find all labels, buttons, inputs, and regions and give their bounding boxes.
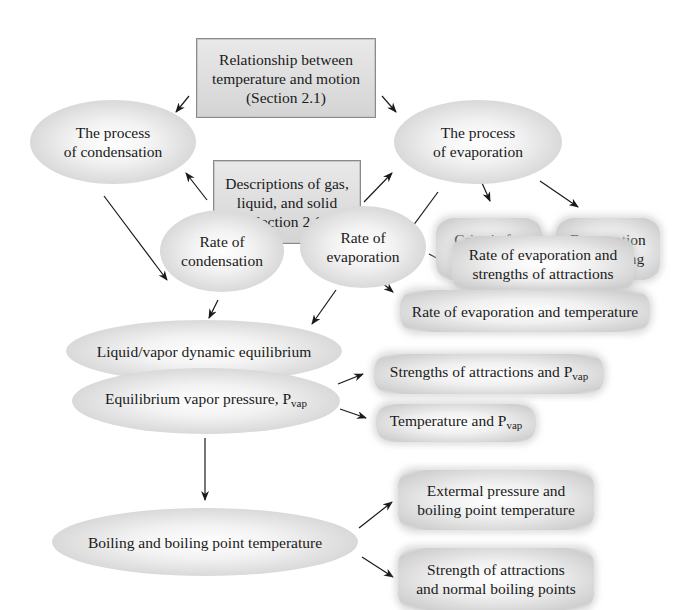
- node-label: Strengths of attractions and Pvap: [390, 362, 588, 386]
- arrow-condensation-to-rate: [104, 196, 167, 280]
- node-rate-evaporation: Rate of evaporation: [300, 206, 426, 288]
- node-strength-normal-boiling: Strength of attractions and normal boili…: [398, 548, 594, 610]
- node-rate-condensation: Rate of condensation: [160, 210, 284, 292]
- arrow-pvap-to-strengths: [338, 374, 363, 384]
- node-rate-evap-temperature: Rate of evaporation and temperature: [400, 290, 650, 332]
- node-label: Relationship between temperature and mot…: [212, 50, 360, 107]
- arrow-relationship-to-evaporation: [382, 96, 396, 112]
- arrow-evaporation-to-cooling: [540, 181, 578, 207]
- arrow-pvap-to-temperature: [340, 409, 366, 418]
- arrow-rate-cond-to-equilibrium: [209, 300, 218, 318]
- arrow-relationship-to-condensation: [176, 96, 189, 112]
- node-label: Extermal pressure and boiling point temp…: [417, 481, 575, 519]
- node-label: The process of condensation: [64, 123, 163, 161]
- node-label: Rate of evaporation and strengths of att…: [469, 245, 617, 283]
- node-label: Temperature and Pvap: [390, 411, 523, 435]
- node-process-condensation: The process of condensation: [30, 100, 196, 184]
- node-label: Rate of evaporation and temperature: [412, 302, 638, 321]
- node-rate-evap-attractions: Rate of evaporation and strengths of att…: [452, 236, 634, 292]
- node-temperature-pvap: Temperature and Pvap: [376, 404, 536, 442]
- node-relationship-temperature-motion: Relationship between temperature and mot…: [196, 38, 376, 118]
- node-label: Rate of evaporation: [326, 228, 399, 266]
- arrow-rate-evap-to-equilibrium: [312, 290, 336, 324]
- node-label: Rate of condensation: [181, 232, 263, 270]
- node-equilibrium-vapor-pressure: Equilibrium vapor pressure, Pvap: [72, 368, 340, 434]
- node-process-evaporation: The process of evaporation: [394, 100, 562, 184]
- arrow-descriptions-to-evaporation: [364, 173, 392, 202]
- node-label: Strength of attractions and normal boili…: [416, 560, 576, 598]
- node-external-pressure: Extermal pressure and boiling point temp…: [398, 470, 594, 530]
- arrow-boiling-to-external: [359, 502, 392, 528]
- node-label: Boiling and boiling point temperature: [88, 533, 322, 552]
- arrow-evaporation-to-criteria: [482, 183, 490, 201]
- node-strengths-pvap: Strengths of attractions and Pvap: [374, 354, 604, 394]
- node-boiling-point-temperature: Boiling and boiling point temperature: [52, 508, 358, 576]
- arrow-descriptions-to-condensation: [186, 173, 207, 200]
- arrow-boiling-to-strength: [362, 557, 393, 577]
- node-label: Equilibrium vapor pressure, Pvap: [105, 389, 307, 413]
- node-label: Liquid/vapor dynamic equilibrium: [97, 342, 311, 361]
- node-label: The process of evaporation: [433, 123, 523, 161]
